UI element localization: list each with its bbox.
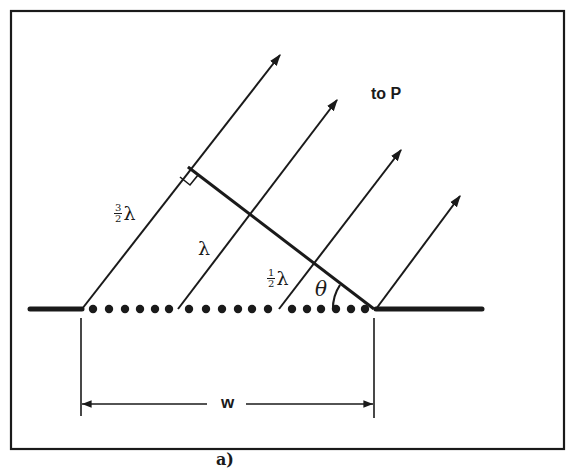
width-label: w	[221, 394, 234, 411]
ray-arrow-2	[178, 100, 337, 309]
ray-arrow-4	[376, 196, 460, 309]
figure-frame	[11, 11, 564, 449]
one-half-lambda-label: 12λ	[267, 268, 288, 289]
ray-arrow-1	[82, 55, 280, 309]
frac-denominator: 2	[268, 279, 274, 289]
wavelet-sources	[89, 305, 369, 313]
caption-fragment: a)	[216, 452, 234, 468]
theta-label: θ	[315, 279, 327, 299]
lambda-symbol: λ	[276, 267, 288, 289]
frac-denominator: 2	[115, 214, 121, 224]
three-halves-lambda-label: 32λ	[114, 203, 135, 224]
right-angle-marker	[180, 167, 198, 185]
to-p-label: to P	[371, 86, 401, 102]
lambda-label: λ	[198, 239, 210, 258]
lambda-symbol: λ	[123, 202, 135, 224]
